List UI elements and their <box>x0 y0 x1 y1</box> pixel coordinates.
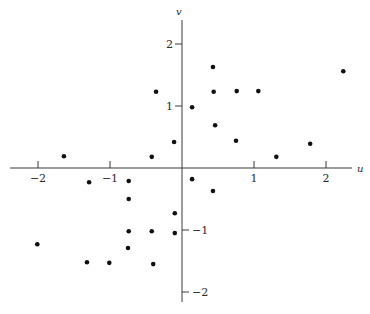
y-tick-label: −2 <box>192 286 208 299</box>
x-tick-label: −1 <box>102 172 118 185</box>
data-point <box>126 179 131 184</box>
data-point <box>149 229 154 234</box>
data-point <box>234 138 239 143</box>
data-point <box>211 65 216 70</box>
y-tick-label: −1 <box>192 224 208 237</box>
data-point <box>341 69 346 74</box>
x-tick-label: 2 <box>323 172 330 185</box>
data-point <box>190 177 195 182</box>
data-point <box>35 242 40 247</box>
data-point <box>62 154 67 159</box>
scatter-plot: −2−11221−1−2 u v <box>0 0 370 314</box>
data-point <box>308 142 313 147</box>
data-points <box>35 65 346 267</box>
data-point <box>107 261 112 266</box>
data-point <box>173 211 178 216</box>
data-point <box>149 155 154 160</box>
data-point <box>87 180 92 185</box>
data-point <box>256 89 261 94</box>
data-point <box>213 123 218 128</box>
y-axis-label: v <box>176 6 182 17</box>
data-point <box>234 89 239 94</box>
data-point <box>173 231 178 236</box>
data-point <box>211 189 216 194</box>
y-tick-label: 1 <box>166 100 173 113</box>
data-point <box>151 262 156 267</box>
x-tick-label: −2 <box>30 172 46 185</box>
data-point <box>126 197 131 202</box>
data-point <box>190 105 195 110</box>
x-axis-label: u <box>357 163 363 174</box>
data-point <box>274 155 279 160</box>
x-tick-label: 1 <box>251 172 258 185</box>
data-point <box>85 260 90 265</box>
data-point <box>126 229 131 234</box>
axes <box>10 20 352 302</box>
data-point <box>154 89 159 94</box>
data-point <box>211 89 216 94</box>
data-point <box>172 140 177 145</box>
y-tick-label: 2 <box>166 38 173 51</box>
data-point <box>126 246 131 251</box>
